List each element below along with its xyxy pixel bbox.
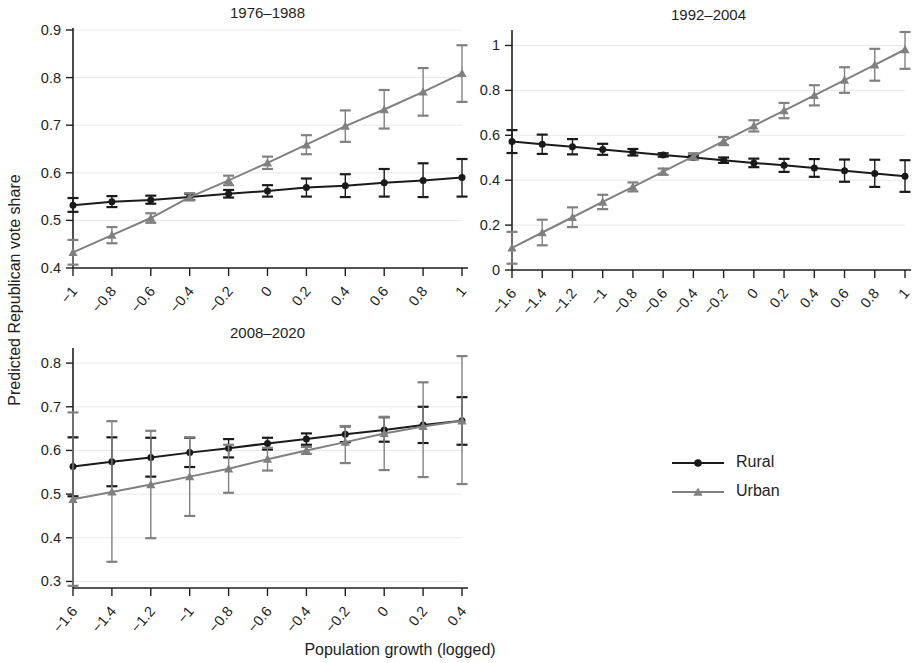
data-point-marker [871, 170, 878, 177]
data-point-marker [147, 196, 154, 203]
data-point-marker [629, 149, 636, 156]
y-tick-label-0: 0.3 [41, 573, 61, 589]
data-point-marker [264, 440, 271, 447]
panel-title: 2008–2020 [230, 324, 305, 341]
y-tick-label-4: 0.8 [41, 70, 61, 86]
data-point-marker [303, 184, 310, 191]
y-tick-label-0: 0 [492, 262, 500, 278]
y-tick-label-5: 1 [492, 37, 500, 53]
data-point-marker [660, 152, 667, 159]
legend-label-rural: Rural [736, 453, 774, 470]
y-tick-label-1: 0.5 [41, 212, 61, 228]
data-point-marker [381, 179, 388, 186]
data-point-marker [750, 159, 757, 166]
data-point-marker [225, 190, 232, 197]
y-axis-title: Predicted Republican vote share [6, 174, 23, 405]
y-tick-label-4: 0.7 [41, 399, 61, 415]
data-point-marker [720, 157, 727, 164]
y-tick-label-1: 0.4 [41, 530, 61, 546]
y-tick-label-2: 0.4 [480, 172, 500, 188]
data-point-marker [599, 146, 606, 153]
data-point-marker [781, 162, 788, 169]
y-tick-label-3: 0.6 [41, 442, 61, 458]
y-tick-label-1: 0.2 [480, 217, 500, 233]
data-point-marker [841, 167, 848, 174]
y-tick-label-4: 0.8 [480, 82, 500, 98]
data-point-marker [70, 202, 77, 209]
data-point-marker [459, 174, 466, 181]
panel-title: 1992–2004 [671, 6, 746, 23]
y-tick-label-5: 0.8 [41, 355, 61, 371]
figure-container: 1976–19880.40.50.60.70.80.9−1−0.8−0.6−0.… [0, 0, 920, 663]
legend-label-urban: Urban [736, 482, 780, 499]
data-point-marker [420, 177, 427, 184]
y-tick-label-5: 0.9 [41, 22, 61, 38]
data-point-marker [569, 143, 576, 150]
y-tick-label-3: 0.6 [480, 127, 500, 143]
y-tick-label-2: 0.6 [41, 165, 61, 181]
data-point-marker [539, 141, 546, 148]
multi-panel-chart: 1976–19880.40.50.60.70.80.9−1−0.8−0.6−0.… [0, 0, 920, 663]
legend-marker [694, 459, 702, 467]
data-point-marker [303, 436, 310, 443]
data-point-marker [342, 182, 349, 189]
data-point-marker [811, 165, 818, 172]
x-axis-title: Population growth (logged) [304, 641, 495, 658]
panel-title: 1976–1988 [230, 4, 305, 21]
data-point-marker [264, 187, 271, 194]
chart-background [0, 0, 920, 663]
y-tick-label-0: 0.4 [41, 260, 61, 276]
data-point-marker [509, 138, 516, 145]
y-tick-label-2: 0.5 [41, 486, 61, 502]
data-point-marker [108, 198, 115, 205]
y-tick-label-3: 0.7 [41, 117, 61, 133]
data-point-marker [902, 173, 909, 180]
